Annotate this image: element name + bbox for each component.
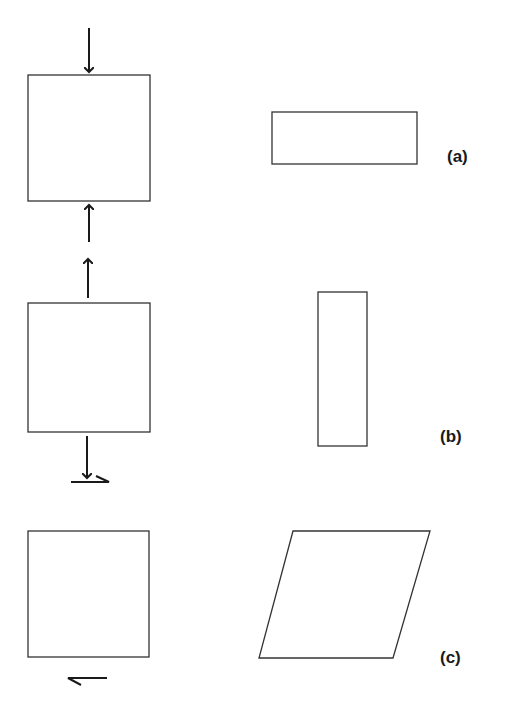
panel-label-a: (a): [447, 147, 468, 167]
deformed-parallelogram-c: [259, 531, 430, 658]
deformed-rect-b: [318, 292, 367, 446]
panel-c: [28, 476, 430, 685]
panel-label-b: (b): [440, 427, 462, 447]
original-square-b: [28, 303, 150, 432]
panel-b: [28, 259, 367, 478]
half-arrow-right-icon: [71, 476, 109, 482]
panel-label-c: (c): [440, 648, 461, 668]
original-square-a: [28, 75, 150, 201]
half-arrow-left-icon: [68, 678, 107, 685]
panel-a: [28, 28, 417, 242]
deformation-diagram: [0, 0, 518, 701]
original-square-c: [28, 531, 149, 657]
deformed-rect-a: [272, 112, 417, 164]
